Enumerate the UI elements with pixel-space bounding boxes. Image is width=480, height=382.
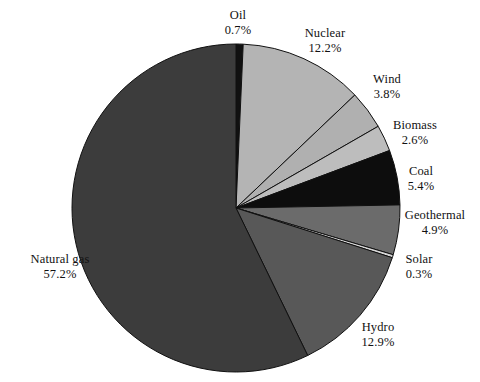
pie-label-solar: Solar 0.3% xyxy=(390,252,448,281)
pie-label-nuclear-value: 12.2% xyxy=(288,41,362,56)
pie-label-wind-name: Wind xyxy=(358,72,416,87)
pie-label-natural-gas: Natural gas 57.2% xyxy=(10,252,110,281)
pie-label-wind-value: 3.8% xyxy=(358,87,416,102)
pie-label-solar-value: 0.3% xyxy=(390,267,448,282)
pie-label-wind: Wind 3.8% xyxy=(358,72,416,101)
pie-chart: Oil 0.7% Nuclear 12.2% Wind 3.8% Biomass… xyxy=(0,0,480,382)
pie-label-oil-value: 0.7% xyxy=(203,23,273,38)
pie-label-biomass: Biomass 2.6% xyxy=(378,118,452,147)
pie-label-biomass-name: Biomass xyxy=(378,118,452,133)
pie-label-oil-name: Oil xyxy=(203,8,273,23)
pie-label-geothermal: Geothermal 4.9% xyxy=(392,208,478,237)
pie-label-biomass-value: 2.6% xyxy=(378,133,452,148)
pie-label-nuclear-name: Nuclear xyxy=(288,26,362,41)
pie-label-geothermal-value: 4.9% xyxy=(392,223,478,238)
pie-label-coal-name: Coal xyxy=(392,164,450,179)
pie-label-natural-gas-value: 57.2% xyxy=(10,267,110,282)
pie-label-solar-name: Solar xyxy=(390,252,448,267)
pie-label-oil: Oil 0.7% xyxy=(203,8,273,37)
pie-label-natural-gas-name: Natural gas xyxy=(10,252,110,267)
pie-label-nuclear: Nuclear 12.2% xyxy=(288,26,362,55)
pie-label-hydro-value: 12.9% xyxy=(348,335,408,350)
pie-label-coal: Coal 5.4% xyxy=(392,164,450,193)
pie-label-hydro-name: Hydro xyxy=(348,320,408,335)
pie-label-coal-value: 5.4% xyxy=(392,179,450,194)
pie-label-geothermal-name: Geothermal xyxy=(392,208,478,223)
pie-label-hydro: Hydro 12.9% xyxy=(348,320,408,349)
